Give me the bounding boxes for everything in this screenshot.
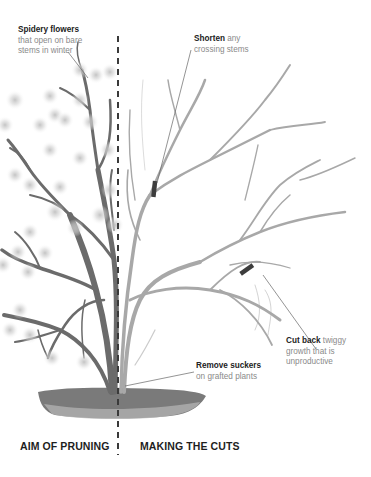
annotation-shorten: Shorten any crossing stems <box>194 34 249 55</box>
annotation-spidery-flowers: Spidery flowers that open on bare stems … <box>18 25 82 57</box>
section-title-making-the-cuts: MAKING THE CUTS <box>140 440 240 452</box>
annotation-cut-back-rest: twiggy <box>321 336 346 345</box>
annotation-remove-suckers-line2: on grafted plants <box>196 372 257 381</box>
annotation-cut-back-line3: unproductive <box>286 357 333 366</box>
annotation-spidery-flowers-title: Spidery flowers <box>18 25 79 34</box>
annotation-shorten-title: Shorten <box>194 34 225 43</box>
annotation-remove-suckers: Remove suckers on grafted plants <box>196 361 261 382</box>
annotation-spidery-flowers-line2: stems in winter <box>18 46 73 55</box>
cut-marker-crossing-stem <box>151 181 157 197</box>
annotation-remove-suckers-title: Remove suckers <box>196 361 261 370</box>
pruning-illustration <box>0 0 371 477</box>
annotation-shorten-line2: crossing stems <box>194 45 249 54</box>
annotation-spidery-flowers-line1: that open on bare <box>18 36 82 45</box>
annotation-cut-back: Cut back twiggy growth that is unproduct… <box>286 336 346 368</box>
annotation-cut-back-line2: growth that is <box>286 347 335 356</box>
section-title-aim-of-pruning: AIM OF PRUNING <box>20 440 109 452</box>
annotation-cut-back-title: Cut back <box>286 336 321 345</box>
annotation-shorten-rest: any <box>225 34 240 43</box>
